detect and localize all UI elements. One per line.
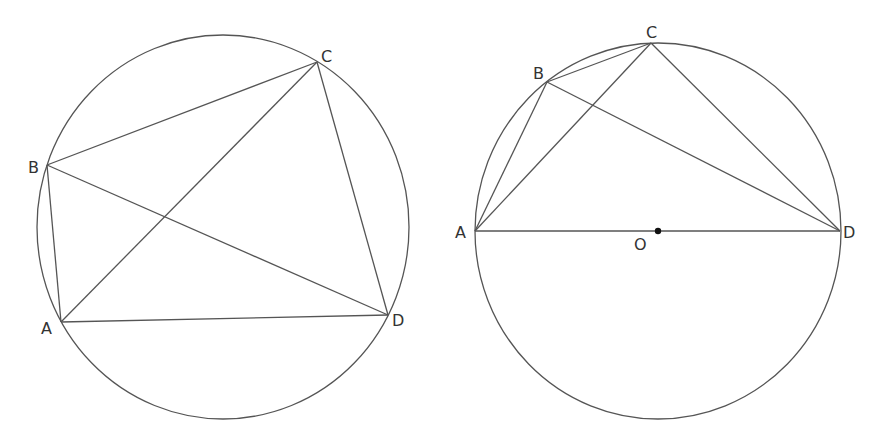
chord-AB	[47, 165, 61, 322]
chord-DA	[61, 315, 388, 322]
label-O: O	[634, 235, 647, 254]
left-figure: A B C D	[28, 35, 409, 419]
geometry-diagram: A B C D A B C D O	[0, 0, 880, 442]
label-C: C	[321, 47, 332, 66]
chord-CD	[651, 43, 840, 231]
label-B: B	[28, 158, 39, 177]
chord-CD	[317, 62, 388, 315]
label-D: D	[843, 223, 855, 242]
chord-BC	[47, 62, 317, 165]
center-point-O	[655, 228, 661, 234]
left-chords	[47, 62, 388, 322]
chord-BD	[547, 82, 840, 231]
right-point-labels: A B C D O	[455, 23, 855, 254]
right-figure: A B C D O	[455, 23, 855, 419]
left-point-labels: A B C D	[28, 47, 404, 338]
chord-AC	[475, 43, 651, 231]
right-chords	[475, 43, 840, 231]
chord-AC	[61, 62, 317, 322]
label-B: B	[533, 64, 544, 83]
label-D: D	[392, 311, 404, 330]
label-A: A	[41, 319, 52, 338]
label-C: C	[646, 23, 657, 42]
chord-AB	[475, 82, 547, 231]
left-circle	[37, 35, 409, 419]
label-A: A	[455, 223, 466, 242]
chord-BC	[547, 43, 651, 82]
chord-BD	[47, 165, 388, 315]
